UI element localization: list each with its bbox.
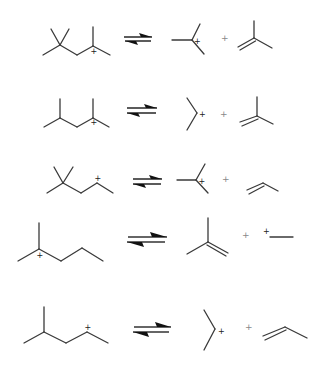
reactant-3: + — [47, 167, 113, 193]
equilibrium-arrow-5 — [133, 322, 171, 337]
reaction-2: + + + — [44, 97, 273, 130]
charge-label: + — [37, 251, 44, 260]
product-5a: + — [204, 310, 225, 350]
charge-label: + — [95, 174, 102, 183]
product-4a — [187, 218, 228, 256]
reaction-4: + + + — [18, 218, 293, 261]
product-3a: + — [177, 164, 208, 193]
charge-label: + — [85, 323, 92, 332]
charge-label: + — [91, 118, 98, 127]
plus-sign: + — [242, 230, 250, 240]
reactant-2: + — [44, 99, 109, 127]
product-3b — [247, 183, 278, 194]
charge-label: + — [199, 177, 206, 186]
reaction-5: + + + — [24, 307, 307, 350]
reaction-3: + + + — [47, 164, 278, 194]
product-2b — [240, 97, 273, 126]
product-2a: + — [187, 98, 206, 130]
equilibrium-arrow-3 — [133, 175, 162, 188]
plus-sign: + — [222, 174, 230, 184]
product-1a: + — [172, 24, 204, 54]
equilibrium-arrow-4 — [127, 232, 167, 247]
plus-sign: + — [221, 33, 229, 43]
equilibrium-arrow-2 — [127, 104, 157, 117]
reactant-5: + — [24, 307, 108, 343]
charge-label: + — [263, 227, 270, 236]
plus-sign: + — [220, 109, 228, 119]
reactant-1: + — [43, 27, 110, 56]
reaction-scheme: + + + + — [0, 0, 322, 373]
charge-label: + — [218, 327, 225, 336]
charge-label: + — [199, 110, 206, 119]
charge-label: + — [91, 47, 98, 56]
charge-label: + — [194, 37, 201, 46]
product-5b — [263, 327, 307, 340]
product-1b — [238, 21, 272, 50]
reactant-4: + — [18, 223, 103, 261]
reaction-1: + + + — [43, 21, 272, 56]
equilibrium-arrow-1 — [124, 33, 152, 45]
plus-sign: + — [245, 322, 253, 332]
product-4b: + — [263, 227, 293, 237]
